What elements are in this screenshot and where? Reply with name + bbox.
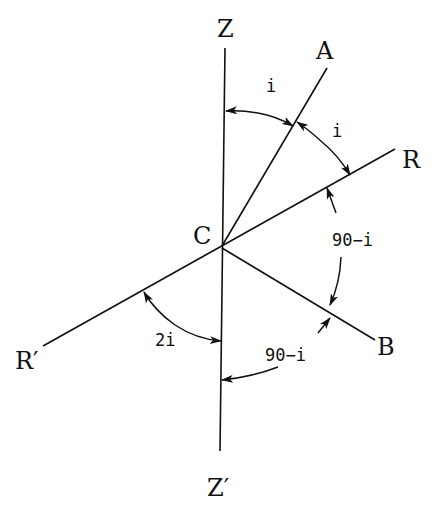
arc-2i-to-zprime <box>175 325 221 341</box>
angle-label-rprime-zprime: 2i <box>155 330 175 350</box>
arc-a-z <box>226 111 258 113</box>
label-r: R <box>402 146 421 174</box>
arc-to-zprime <box>222 367 278 380</box>
angle-label-z-a: i <box>266 76 276 96</box>
label-zprime: Z′ <box>207 474 229 502</box>
label-a: A <box>315 37 334 65</box>
label-c: C <box>193 222 211 250</box>
arc-a-r <box>322 142 350 175</box>
angle-label-a-r: i <box>332 121 342 141</box>
arc-to-b <box>330 257 341 305</box>
angle-label-b-zprime: 90−i <box>265 345 306 365</box>
label-rprime: R′ <box>15 347 39 375</box>
arc-z-a <box>258 113 293 126</box>
angle-label-r-b: 90−i <box>332 230 373 250</box>
arrow-to-b <box>318 318 330 333</box>
arrow-to-r <box>327 188 336 213</box>
arc-2i-to-rprime <box>144 292 175 325</box>
label-z: Z <box>217 15 234 43</box>
line-c-b <box>222 248 375 340</box>
reflection-diagram: Z A R C B R′ Z′ i i 90−i 90−i 2i <box>0 0 439 507</box>
arc-r-a <box>297 122 322 142</box>
label-b: B <box>377 333 395 361</box>
